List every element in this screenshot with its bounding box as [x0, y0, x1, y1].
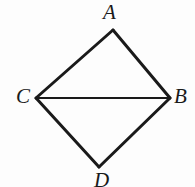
- segment-AB: [113, 30, 170, 98]
- vertex-label-c: C: [16, 86, 30, 107]
- segment-DC: [36, 98, 99, 167]
- segment-CA: [36, 30, 113, 98]
- vertex-label-d: D: [94, 170, 109, 187]
- vertex-label-b: B: [174, 86, 187, 107]
- vertex-label-a: A: [103, 2, 116, 23]
- segment-BD: [99, 98, 170, 167]
- geometry-figure: A C B D: [0, 0, 195, 187]
